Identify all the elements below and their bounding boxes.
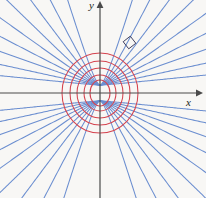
conics-plot <box>0 0 206 198</box>
x-axis-label: x <box>186 97 191 108</box>
hyperbola-branch <box>66 0 100 85</box>
y-axis-arrowhead <box>97 1 104 8</box>
axes <box>0 1 203 198</box>
hyperbola-branch <box>100 0 134 85</box>
hyperbola-branch <box>1 0 100 85</box>
hyperbola-branch <box>100 0 199 85</box>
x-axis-arrowhead <box>196 90 203 97</box>
hyperbola-family <box>0 0 206 198</box>
y-axis-label: y <box>89 0 94 11</box>
figure-container: y x <box>0 0 206 198</box>
